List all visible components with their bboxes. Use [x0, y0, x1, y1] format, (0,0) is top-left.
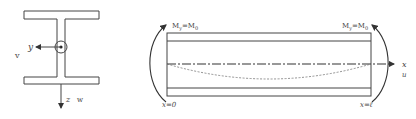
deflection-curve: [167, 64, 371, 79]
left-end-label: x=0: [162, 101, 177, 109]
beam-side-view: [150, 25, 394, 102]
diagram-canvas: y v z w My=M0 My=M0 x u x=0 x=ℓ: [0, 0, 416, 119]
right-end-label: x=ℓ: [360, 101, 373, 109]
u-label: u: [402, 71, 407, 79]
i-beam-cross-section: [24, 11, 99, 108]
v-label: v: [14, 51, 20, 60]
z-axis-label: z: [65, 95, 71, 104]
left-moment-label: My=M0: [172, 22, 198, 32]
y-axis-label: y: [27, 42, 34, 52]
left-moment-arrow: [150, 25, 166, 102]
right-moment-label: My=M0: [342, 22, 368, 32]
x-axis-label: x: [402, 60, 407, 69]
w-label: w: [77, 96, 83, 104]
